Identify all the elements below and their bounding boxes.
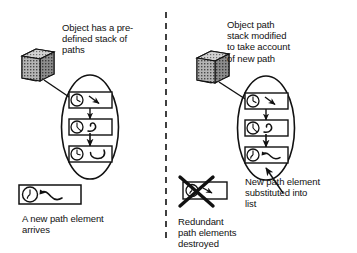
stack-item-left-2[interactable] (69, 119, 112, 135)
diagram-canvas: Object has a pre- defined stack of paths… (0, 0, 357, 253)
caption-redundant-path-elements-destroyed: Redundant path elements destroyed (178, 216, 263, 250)
stack-item-right-3-new[interactable] (245, 147, 288, 163)
cube-icon-right (197, 51, 229, 83)
caption-object-predefined-stack: Object has a pre- defined stack of paths (62, 22, 158, 56)
stack-item-right-1[interactable] (245, 93, 288, 109)
caption-new-path-element-arrives: A new path element arrives (22, 213, 157, 235)
caption-object-stack-modified: Object path stack modified to take accou… (227, 19, 339, 64)
new-path-element-box-left[interactable] (19, 185, 81, 204)
stack-item-left-1[interactable] (69, 92, 112, 108)
stack-item-right-2[interactable] (245, 120, 288, 136)
cube-icon-left (22, 49, 54, 81)
stack-item-left-3[interactable] (69, 146, 112, 162)
caption-new-path-element-substituted: New path element substituted into list (245, 176, 355, 210)
